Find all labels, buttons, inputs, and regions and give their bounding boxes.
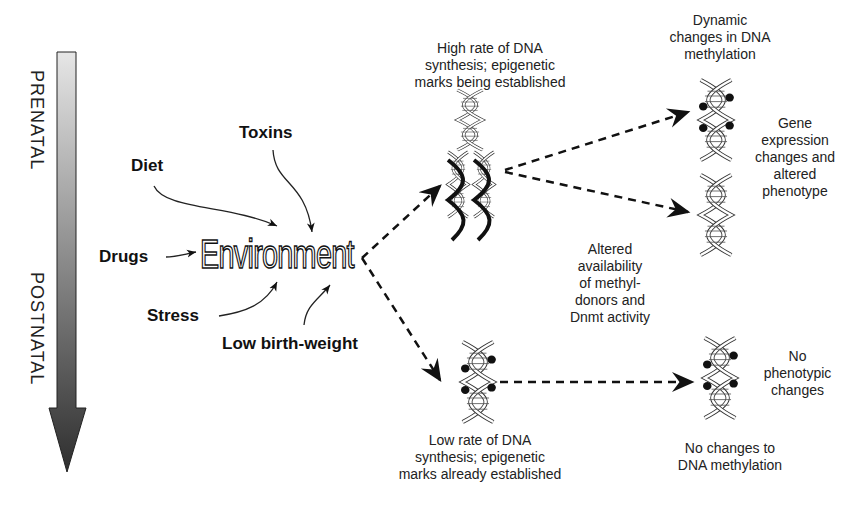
replicating-dna-icon [448,90,494,240]
postnatal-label: POSTNATAL [26,272,47,385]
unchanged-dna-icon [703,338,738,418]
factor-toxins: Toxins [239,123,293,143]
no-phenotypic-label: No phenotypic changes [750,348,845,399]
factor-stress: Stress [147,306,199,326]
gene-expression-label: Gene expression changes and altered phen… [740,115,850,200]
environment-label: Environment [200,232,354,277]
high-rate-label: High rate of DNA synthesis; epigenetic m… [405,40,575,91]
factor-drugs: Drugs [99,247,148,267]
established-dna-icon [461,342,496,422]
methylated-dna-icon [699,80,734,160]
factor-diet: Diet [131,156,163,176]
low-rate-label: Low rate of DNA synthesis; epigenetic ma… [385,432,575,483]
dynamic-changes-label: Dynamic changes in DNA methylation [660,12,780,63]
factor-low-birth-weight: Low birth-weight [222,334,358,354]
unmethylated-dna-icon [701,175,732,255]
timeline-arrow [49,52,86,472]
no-changes-label: No changes to DNA methylation [655,440,805,474]
altered-availability-label: Altered availability of methyl- donors a… [555,241,665,326]
prenatal-label: PRENATAL [26,70,47,170]
